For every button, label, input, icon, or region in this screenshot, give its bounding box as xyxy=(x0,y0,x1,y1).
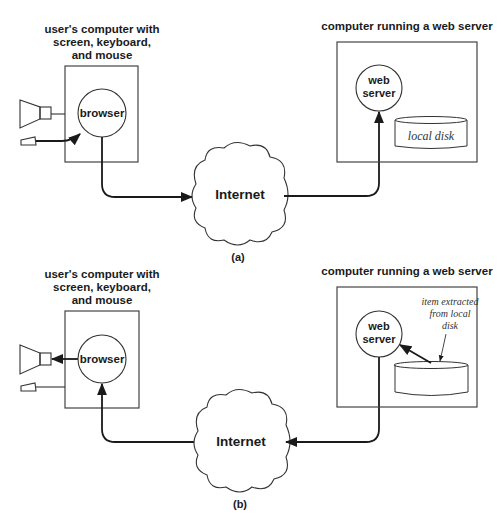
web-server-label-line-2: server xyxy=(362,87,396,99)
input-arrow xyxy=(36,134,80,141)
disk-annotation-line-2: from local xyxy=(429,308,470,319)
web-request-diagram: user's computer with screen, keyboard, a… xyxy=(0,0,501,530)
web-server-label-line-1: web xyxy=(367,320,390,332)
keyboard-icon xyxy=(21,137,36,145)
server-title: computer running a web server xyxy=(321,265,493,277)
panel-caption-b: (b) xyxy=(233,498,247,510)
client-title-line-2: screen, keyboard, xyxy=(53,36,151,48)
annotation-pointer-arrow xyxy=(440,334,446,361)
client-title-line-3: and mouse xyxy=(72,294,133,306)
web-server-label-line-1: web xyxy=(367,74,390,86)
screen-icon xyxy=(20,345,51,374)
item-extraction-arrow xyxy=(400,345,431,363)
response-path-to-browser xyxy=(102,384,194,442)
server-title: computer running a web server xyxy=(321,20,493,32)
client-title-line-1: user's computer with xyxy=(44,268,159,280)
browser-label: browser xyxy=(80,353,125,365)
client-title-line-3: and mouse xyxy=(72,49,133,61)
disk-annotation-line-3: disk xyxy=(442,320,459,331)
keyboard-icon xyxy=(21,383,65,391)
internet-label: Internet xyxy=(216,434,266,449)
screen-icon xyxy=(20,100,65,128)
disk-annotation-line-1: item extracted xyxy=(422,296,480,307)
client-title-line-1: user's computer with xyxy=(44,23,159,35)
browser-label: browser xyxy=(80,107,125,119)
server-computer-box xyxy=(337,42,477,162)
response-path-to-internet xyxy=(286,357,379,442)
client-title-line-2: screen, keyboard, xyxy=(53,281,151,293)
request-path-to-internet xyxy=(102,137,192,197)
request-path-to-server xyxy=(284,112,379,196)
panel-caption-a: (a) xyxy=(231,251,245,263)
internet-label: Internet xyxy=(215,187,265,202)
panel-a: user's computer with screen, keyboard, a… xyxy=(20,20,493,263)
local-disk xyxy=(394,362,468,396)
diagram-stage: user's computer with screen, keyboard, a… xyxy=(0,0,501,530)
web-server-label-line-2: server xyxy=(362,333,396,345)
local-disk-label: local disk xyxy=(408,129,455,143)
panel-b: user's computer with screen, keyboard, a… xyxy=(20,265,493,510)
